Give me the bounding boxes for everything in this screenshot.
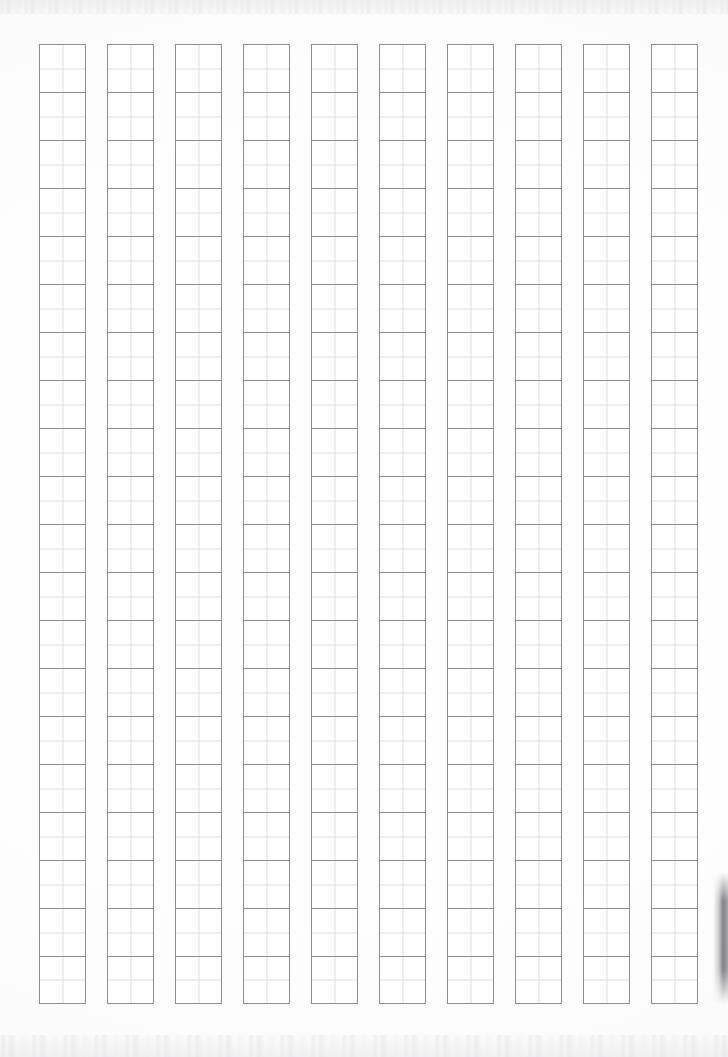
grid-cell[interactable]: [651, 812, 698, 860]
grid-cell[interactable]: [311, 284, 358, 332]
grid-cell[interactable]: [243, 92, 290, 140]
grid-cell[interactable]: [447, 236, 494, 284]
grid-cell[interactable]: [311, 668, 358, 716]
grid-cell[interactable]: [311, 236, 358, 284]
grid-cell[interactable]: [447, 908, 494, 956]
grid-cell[interactable]: [243, 236, 290, 284]
grid-cell[interactable]: [515, 476, 562, 524]
grid-cell[interactable]: [107, 92, 154, 140]
grid-cell[interactable]: [515, 716, 562, 764]
grid-cell[interactable]: [379, 860, 426, 908]
grid-cell[interactable]: [107, 908, 154, 956]
grid-cell[interactable]: [243, 716, 290, 764]
grid-cell[interactable]: [583, 236, 630, 284]
grid-cell[interactable]: [311, 140, 358, 188]
grid-cell[interactable]: [515, 668, 562, 716]
grid-cell[interactable]: [583, 524, 630, 572]
grid-cell[interactable]: [107, 140, 154, 188]
grid-cell[interactable]: [515, 956, 562, 1004]
grid-cell[interactable]: [311, 428, 358, 476]
grid-cell[interactable]: [311, 92, 358, 140]
grid-cell[interactable]: [243, 764, 290, 812]
grid-cell[interactable]: [583, 620, 630, 668]
grid-cell[interactable]: [651, 572, 698, 620]
grid-cell[interactable]: [175, 92, 222, 140]
grid-cell[interactable]: [651, 764, 698, 812]
grid-cell[interactable]: [107, 812, 154, 860]
grid-cell[interactable]: [651, 620, 698, 668]
grid-cell[interactable]: [311, 620, 358, 668]
grid-cell[interactable]: [175, 572, 222, 620]
grid-cell[interactable]: [39, 764, 86, 812]
grid-cell[interactable]: [515, 92, 562, 140]
grid-cell[interactable]: [311, 332, 358, 380]
grid-cell[interactable]: [311, 572, 358, 620]
grid-cell[interactable]: [243, 284, 290, 332]
grid-cell[interactable]: [447, 860, 494, 908]
grid-cell[interactable]: [311, 764, 358, 812]
grid-cell[interactable]: [175, 716, 222, 764]
grid-cell[interactable]: [39, 44, 86, 92]
grid-cell[interactable]: [447, 524, 494, 572]
grid-cell[interactable]: [447, 380, 494, 428]
grid-cell[interactable]: [311, 188, 358, 236]
grid-cell[interactable]: [651, 140, 698, 188]
grid-cell[interactable]: [651, 284, 698, 332]
grid-cell[interactable]: [379, 188, 426, 236]
grid-cell[interactable]: [39, 572, 86, 620]
grid-cell[interactable]: [39, 860, 86, 908]
grid-cell[interactable]: [651, 476, 698, 524]
grid-cell[interactable]: [107, 44, 154, 92]
grid-cell[interactable]: [447, 764, 494, 812]
grid-cell[interactable]: [39, 908, 86, 956]
grid-cell[interactable]: [651, 380, 698, 428]
grid-cell[interactable]: [515, 572, 562, 620]
grid-cell[interactable]: [243, 860, 290, 908]
grid-cell[interactable]: [447, 332, 494, 380]
grid-cell[interactable]: [583, 812, 630, 860]
grid-cell[interactable]: [447, 668, 494, 716]
grid-cell[interactable]: [447, 572, 494, 620]
grid-cell[interactable]: [515, 236, 562, 284]
grid-cell[interactable]: [107, 716, 154, 764]
grid-cell[interactable]: [39, 428, 86, 476]
grid-cell[interactable]: [39, 716, 86, 764]
grid-cell[interactable]: [515, 380, 562, 428]
grid-cell[interactable]: [651, 908, 698, 956]
grid-cell[interactable]: [39, 524, 86, 572]
grid-cell[interactable]: [107, 284, 154, 332]
grid-cell[interactable]: [447, 956, 494, 1004]
grid-cell[interactable]: [447, 92, 494, 140]
grid-cell[interactable]: [651, 956, 698, 1004]
grid-cell[interactable]: [583, 476, 630, 524]
grid-cell[interactable]: [515, 332, 562, 380]
grid-cell[interactable]: [583, 860, 630, 908]
grid-cell[interactable]: [583, 44, 630, 92]
grid-cell[interactable]: [447, 284, 494, 332]
grid-cell[interactable]: [175, 44, 222, 92]
grid-cell[interactable]: [447, 716, 494, 764]
grid-cell[interactable]: [379, 620, 426, 668]
grid-cell[interactable]: [243, 668, 290, 716]
grid-cell[interactable]: [515, 140, 562, 188]
grid-cell[interactable]: [447, 476, 494, 524]
grid-cell[interactable]: [175, 380, 222, 428]
grid-cell[interactable]: [379, 92, 426, 140]
grid-cell[interactable]: [107, 620, 154, 668]
grid-cell[interactable]: [379, 572, 426, 620]
grid-cell[interactable]: [39, 620, 86, 668]
grid-cell[interactable]: [243, 812, 290, 860]
grid-cell[interactable]: [515, 908, 562, 956]
grid-cell[interactable]: [39, 812, 86, 860]
grid-cell[interactable]: [651, 668, 698, 716]
grid-cell[interactable]: [243, 476, 290, 524]
grid-cell[interactable]: [379, 236, 426, 284]
grid-cell[interactable]: [311, 812, 358, 860]
grid-cell[interactable]: [379, 140, 426, 188]
grid-cell[interactable]: [651, 860, 698, 908]
grid-cell[interactable]: [311, 380, 358, 428]
grid-cell[interactable]: [583, 716, 630, 764]
grid-cell[interactable]: [583, 332, 630, 380]
grid-cell[interactable]: [379, 764, 426, 812]
grid-cell[interactable]: [175, 812, 222, 860]
